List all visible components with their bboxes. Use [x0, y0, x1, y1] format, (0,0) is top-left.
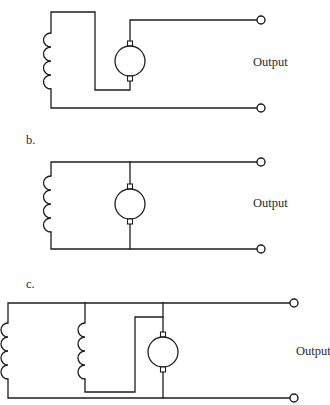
output-label: Output — [253, 55, 288, 69]
diagram-b: b. Output — [26, 133, 288, 253]
brush-top — [161, 332, 166, 337]
output-terminal-top-icon — [290, 299, 298, 307]
bottom-output-wire — [51, 232, 257, 249]
inductor-coil-icon — [44, 176, 52, 232]
brush-bottom — [128, 219, 133, 224]
diagram-label: b. — [26, 133, 35, 147]
dc-armature-icon — [115, 41, 145, 81]
diagram-c: c. Output — [1, 277, 330, 402]
output-label: Output — [253, 196, 288, 210]
diagram-a: Output — [44, 12, 289, 112]
inductor-coil-icon — [1, 323, 8, 379]
armature-circle — [148, 337, 178, 367]
bottom-output-wire — [51, 89, 257, 108]
output-terminal-top-icon — [257, 16, 265, 24]
dc-armature-icon — [148, 332, 178, 372]
output-terminal-bottom-icon — [257, 104, 265, 112]
brush-bottom — [161, 367, 166, 372]
brush-top — [128, 41, 133, 46]
inductor-coil-icon — [44, 33, 52, 89]
inductor-coil-icon — [78, 323, 85, 379]
output-terminal-bottom-icon — [257, 245, 265, 253]
bottom-output-wire — [8, 379, 290, 398]
brush-bottom — [128, 76, 133, 81]
output-terminal-bottom-icon — [290, 394, 298, 402]
dc-armature-icon — [115, 184, 145, 224]
output-terminal-top-icon — [257, 158, 265, 166]
top-output-wire — [8, 303, 290, 323]
diagram-label: c. — [26, 277, 35, 291]
top-output-wire — [51, 162, 257, 176]
armature-circle — [115, 46, 145, 76]
top-output-wire — [130, 20, 257, 41]
brush-top — [128, 184, 133, 189]
generator-connection-diagrams: Output b. Output c. — [0, 0, 330, 405]
output-label: Output — [296, 344, 330, 358]
armature-circle — [115, 189, 145, 219]
diagram-canvas: Output b. Output c. — [0, 0, 330, 405]
